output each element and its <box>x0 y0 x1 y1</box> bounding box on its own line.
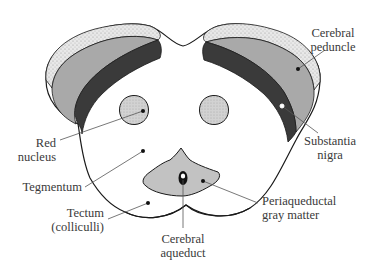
label-periaqueductal-line1: Periaqueductal <box>262 194 366 208</box>
label-cerebral-peduncle-line1: Cerebral <box>300 26 366 40</box>
label-cerebral-aqueduct: Cerebral aqueduct <box>150 232 216 260</box>
periaqueductal-marker <box>201 179 205 183</box>
label-cerebral-peduncle-line2: peduncle <box>300 40 366 54</box>
label-periaqueductal-gray: Periaqueductal gray matter <box>262 194 366 222</box>
label-cerebral-aqueduct-line1: Cerebral <box>150 232 216 246</box>
peduncle-marker <box>296 67 300 71</box>
label-periaqueductal-line2: gray matter <box>262 208 366 222</box>
tegmentum-marker <box>141 149 145 153</box>
label-red-nucleus: Red nucleus <box>4 136 56 164</box>
label-red-nucleus-line1: Red <box>4 136 56 150</box>
label-substantia-nigra-line2: nigra <box>293 148 367 162</box>
label-tectum-line2: (colliculli) <box>30 220 104 234</box>
label-tectum: Tectum (colliculli) <box>30 206 104 234</box>
right-red-nucleus <box>199 95 228 124</box>
label-cerebral-peduncle: Cerebral peduncle <box>300 26 366 54</box>
label-tegmentum: Tegmentum <box>4 180 82 194</box>
tectum-marker <box>146 201 150 205</box>
label-red-nucleus-line2: nucleus <box>4 150 56 164</box>
label-substantia-nigra: Substantia nigra <box>293 134 367 162</box>
red-nucleus-marker <box>141 109 145 113</box>
label-substantia-nigra-line1: Substantia <box>293 134 367 148</box>
label-cerebral-aqueduct-line2: aqueduct <box>150 246 216 260</box>
label-tegmentum-line1: Tegmentum <box>4 180 82 194</box>
aqueduct-lumen <box>181 174 185 179</box>
substantia-nigra-marker <box>280 104 284 108</box>
label-tectum-line1: Tectum <box>30 206 104 220</box>
